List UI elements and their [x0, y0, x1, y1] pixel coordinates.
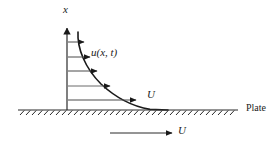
plate-hatch-mark — [206, 111, 210, 116]
velocity-profile-label: u(x, t) — [91, 47, 117, 58]
plate-hatching — [20, 111, 234, 116]
boundary-layer-figure: x u(x, t) U U Plate — [0, 0, 280, 147]
plate-hatch-mark — [200, 111, 204, 116]
plate-hatch-mark — [26, 111, 30, 116]
figure-canvas — [0, 0, 280, 147]
freestream-label-upper: U — [147, 89, 155, 100]
plate-hatch-mark — [110, 111, 114, 116]
plate-hatch-mark — [62, 111, 66, 116]
plate-hatch-mark — [68, 111, 72, 116]
plate-hatch-mark — [230, 111, 234, 116]
plate-hatch-mark — [212, 111, 216, 116]
plate-hatch-mark — [56, 111, 60, 116]
plate-hatch-mark — [98, 111, 102, 116]
plate-hatch-mark — [134, 111, 138, 116]
plate-hatch-mark — [182, 111, 186, 116]
plate-hatch-mark — [170, 111, 174, 116]
plate-hatch-mark — [32, 111, 36, 116]
plate-hatch-mark — [128, 111, 132, 116]
x-axis-label: x — [63, 4, 68, 15]
plate-hatch-mark — [158, 111, 162, 116]
plate-hatch-mark — [80, 111, 84, 116]
plate-hatch-mark — [38, 111, 42, 116]
plate-hatch-mark — [188, 111, 192, 116]
plate-label: Plate — [246, 103, 266, 113]
plate-hatch-mark — [122, 111, 126, 116]
plate-hatch-mark — [116, 111, 120, 116]
plate-hatch-mark — [140, 111, 144, 116]
plate-hatch-mark — [152, 111, 156, 116]
freestream-label-lower: U — [178, 125, 186, 136]
plate-hatch-mark — [194, 111, 198, 116]
plate-hatch-mark — [164, 111, 168, 116]
plate-hatch-mark — [104, 111, 108, 116]
plate-hatch-mark — [86, 111, 90, 116]
plate-hatch-mark — [218, 111, 222, 116]
plate-hatch-mark — [74, 111, 78, 116]
plate-hatch-mark — [176, 111, 180, 116]
plate-hatch-mark — [146, 111, 150, 116]
plate-hatch-mark — [92, 111, 96, 116]
plate-hatch-mark — [50, 111, 54, 116]
plate-hatch-mark — [20, 111, 24, 116]
plate-hatch-mark — [224, 111, 228, 116]
plate-hatch-mark — [44, 111, 48, 116]
